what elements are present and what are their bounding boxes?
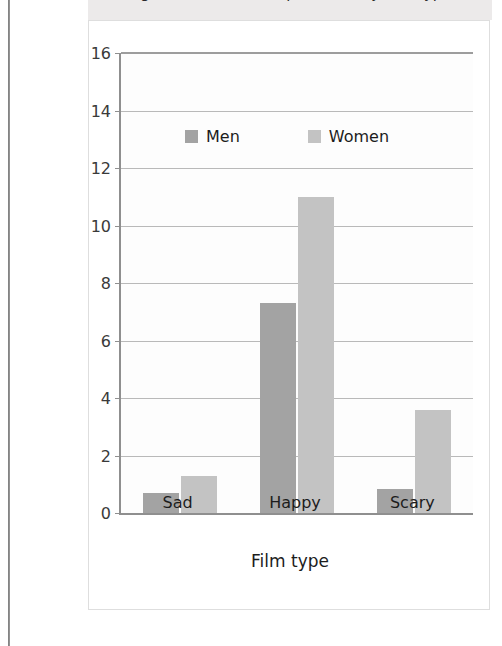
- gridline: [121, 226, 473, 227]
- figure-card: Number of expressions 0246810121416 SadH…: [88, 20, 490, 610]
- y-tick-mark: [115, 168, 121, 169]
- legend-label-women: Women: [329, 127, 389, 146]
- y-tick-label: 0: [77, 504, 111, 523]
- y-tick-label: 16: [77, 44, 111, 63]
- bar-women-happy: [298, 197, 334, 513]
- gridline: [121, 168, 473, 169]
- gridline: [121, 398, 473, 399]
- y-tick-mark: [115, 456, 121, 457]
- gridline: [121, 111, 473, 112]
- y-tick-mark: [115, 398, 121, 399]
- y-tick-mark: [115, 513, 121, 514]
- gridline: [121, 52, 473, 54]
- y-tick-label: 4: [77, 389, 111, 408]
- y-tick-mark: [115, 283, 121, 284]
- legend-item-men: Men: [185, 127, 240, 146]
- x-tick-label: Sad: [163, 493, 193, 512]
- y-tick-mark: [115, 111, 121, 112]
- page-gutter-rule: [8, 0, 10, 646]
- legend-swatch-men-icon: [185, 130, 198, 143]
- y-tick-label: 14: [77, 101, 111, 120]
- y-tick-mark: [115, 341, 121, 342]
- legend-label-men: Men: [206, 127, 240, 146]
- y-tick-label: 8: [77, 274, 111, 293]
- plot-area: 0246810121416: [119, 53, 473, 515]
- y-tick-label: 10: [77, 216, 111, 235]
- x-tick-label: Happy: [269, 493, 321, 512]
- chart-legend: Men Women: [185, 127, 389, 146]
- gridline: [121, 341, 473, 342]
- x-axis-title: Film type: [89, 551, 491, 571]
- figure-caption-band: Figure: Number of expressions by film ty…: [88, 0, 492, 20]
- bar-chart: Number of expressions 0246810121416 SadH…: [89, 21, 491, 611]
- legend-swatch-women-icon: [308, 130, 321, 143]
- y-tick-mark: [115, 53, 121, 54]
- legend-item-women: Women: [308, 127, 389, 146]
- y-tick-label: 12: [77, 159, 111, 178]
- y-tick-label: 6: [77, 331, 111, 350]
- y-tick-label: 2: [77, 446, 111, 465]
- y-tick-mark: [115, 226, 121, 227]
- gridline: [121, 283, 473, 284]
- x-tick-label: Scary: [390, 493, 435, 512]
- bar-men-happy: [260, 303, 296, 513]
- figure-caption: Figure: Number of expressions by film ty…: [88, 0, 492, 2]
